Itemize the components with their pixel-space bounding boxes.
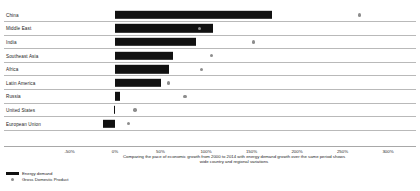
x-axis-tick: -50% (64, 149, 74, 154)
chart-row: Southeast Asia (0, 49, 420, 63)
x-axis-tick: 0% (112, 149, 118, 154)
chart-row: European Union (0, 117, 420, 131)
growth-comparison-chart: ChinaMiddle EastIndiaSoutheast AsiaAfric… (0, 0, 420, 191)
chart-row: Russia (0, 90, 420, 104)
gdp-marker (127, 122, 130, 125)
energy-demand-bar (115, 38, 196, 46)
chart-row: United States (0, 103, 420, 117)
chart-legend: Energy demand Gross Domestic Product (6, 170, 126, 183)
energy-demand-bar (103, 119, 115, 127)
chart-row: Latin America (0, 76, 420, 90)
legend-label: Gross Domestic Product (22, 177, 69, 182)
gdp-marker (133, 108, 136, 111)
energy-demand-bar (115, 65, 169, 73)
legend-item-gross-domestic-product: Gross Domestic Product (6, 176, 126, 182)
gdp-marker (183, 95, 186, 98)
category-label: Latin America (6, 80, 35, 85)
category-label: China (6, 12, 19, 17)
chart-caption: Comparing the pace of economic growth fr… (120, 154, 348, 165)
chart-row: China (0, 8, 420, 22)
x-axis-tick: 300% (382, 149, 393, 154)
chart-row: Middle East (0, 22, 420, 36)
category-label: Africa (6, 67, 18, 72)
category-label: India (6, 39, 17, 44)
gdp-marker (358, 13, 361, 16)
category-label: Middle East (6, 26, 31, 31)
category-label: United States (6, 107, 35, 112)
category-label: European Union (6, 121, 41, 126)
dot-swatch-icon (6, 178, 19, 181)
legend-label: Energy demand (22, 171, 52, 176)
row-divider (4, 130, 416, 131)
energy-demand-bar (114, 106, 115, 114)
category-label: Russia (6, 94, 21, 99)
chart-row: India (0, 35, 420, 49)
category-label: Southeast Asia (6, 53, 38, 58)
gdp-marker (252, 40, 255, 43)
energy-demand-bar (115, 51, 173, 59)
gdp-marker (210, 54, 213, 57)
x-axis-line (4, 146, 416, 147)
energy-demand-bar (115, 11, 272, 19)
plot-area: ChinaMiddle EastIndiaSoutheast AsiaAfric… (0, 8, 420, 138)
gdp-marker (200, 68, 203, 71)
energy-demand-bar (115, 79, 161, 87)
gdp-marker (167, 81, 170, 84)
bar-swatch-icon (6, 172, 19, 175)
energy-demand-bar (115, 92, 120, 100)
chart-row: Africa (0, 62, 420, 76)
